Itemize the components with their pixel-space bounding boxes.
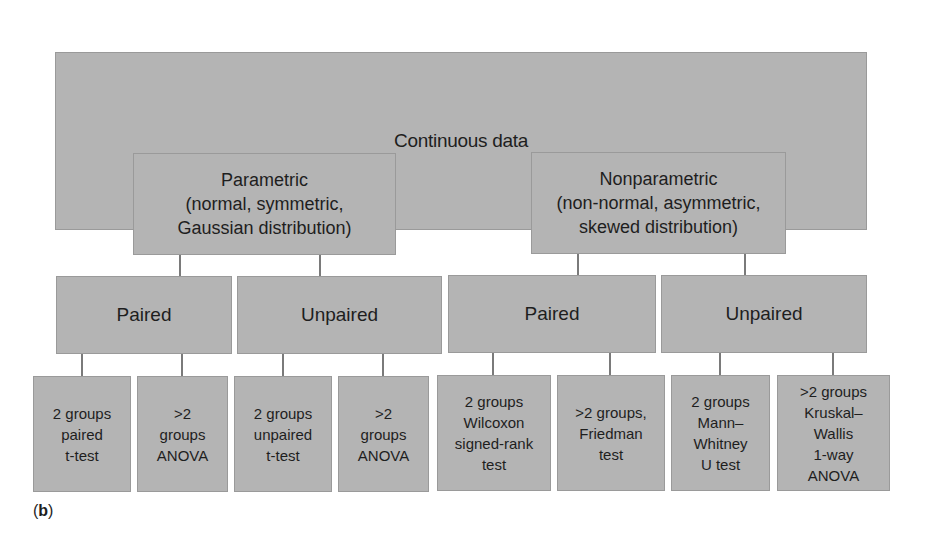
node-nonparametric: Nonparametric (non-normal, asymmetric, s…: [531, 152, 786, 254]
node-label: Unpaired: [301, 304, 378, 326]
connector-p-paired-2groups: [81, 354, 83, 376]
node-label: >2 groups ANOVA: [358, 403, 409, 466]
node-label: 2 groups unpaired t-test: [254, 403, 312, 466]
panel-letter: b: [38, 502, 48, 519]
connector-np-unpaired-2groups: [719, 353, 721, 375]
connector-np-unpaired-gt2groups: [832, 353, 834, 375]
node-parametric: Parametric (normal, symmetric, Gaussian …: [133, 153, 396, 255]
node-label: Unpaired: [725, 303, 802, 325]
node-parametric-paired: Paired: [56, 276, 232, 354]
node-label: 2 groups paired t-test: [53, 403, 111, 466]
node-label: >2 groups Kruskal– Wallis 1-way ANOVA: [800, 381, 867, 486]
connector-parametric-unpaired: [319, 255, 321, 276]
node-label: >2 groups, Friedman test: [575, 402, 646, 465]
node-nonparametric-paired: Paired: [448, 275, 656, 353]
node-label: Paired: [525, 303, 580, 325]
node-paired-t-test: 2 groups paired t-test: [33, 376, 131, 492]
node-label: 2 groups Mann– Whitney U test: [691, 391, 749, 475]
node-label: 2 groups Wilcoxon signed-rank test: [455, 391, 533, 475]
connector-p-paired-gt2groups: [181, 354, 183, 376]
node-anova-paired: >2 groups ANOVA: [137, 376, 228, 492]
node-friedman-test: >2 groups, Friedman test: [557, 375, 665, 491]
connector-p-unpaired-gt2groups: [382, 354, 384, 376]
connector-p-unpaired-2groups: [282, 354, 284, 376]
node-label: Parametric (normal, symmetric, Gaussian …: [177, 168, 351, 240]
connector-np-paired-2groups: [492, 353, 494, 375]
node-wilcoxon-signed-rank: 2 groups Wilcoxon signed-rank test: [437, 375, 551, 491]
connector-parametric-paired: [179, 255, 181, 276]
node-parametric-unpaired: Unpaired: [237, 276, 442, 354]
node-label: >2 groups ANOVA: [157, 403, 208, 466]
node-mann-whitney: 2 groups Mann– Whitney U test: [671, 375, 770, 491]
node-label: Nonparametric (non-normal, asymmetric, s…: [556, 167, 760, 239]
node-unpaired-t-test: 2 groups unpaired t-test: [234, 376, 332, 492]
connector-nonparametric-unpaired: [744, 254, 746, 276]
connector-nonparametric-paired: [577, 254, 579, 276]
connector-np-paired-gt2groups: [609, 353, 611, 375]
node-kruskal-wallis: >2 groups Kruskal– Wallis 1-way ANOVA: [777, 375, 890, 491]
panel-label: (b): [33, 502, 53, 520]
node-nonparametric-unpaired: Unpaired: [661, 275, 867, 353]
node-label: Continuous data: [394, 130, 528, 152]
node-anova-unpaired: >2 groups ANOVA: [338, 376, 429, 492]
node-label: Paired: [117, 304, 172, 326]
